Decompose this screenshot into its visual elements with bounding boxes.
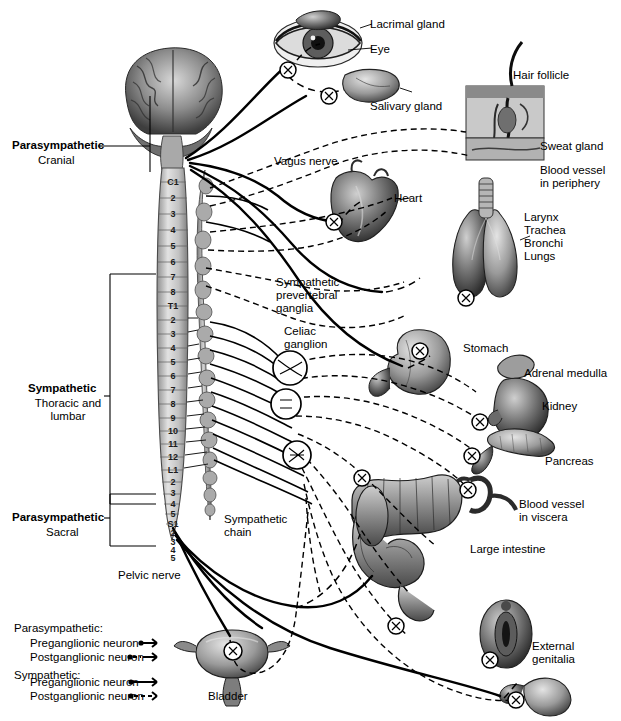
legend-symp-postganglionic-label: Postganglionic neuron [30, 690, 144, 703]
division-label-parasympathetic-sacral: Parasympathetic [12, 511, 104, 524]
legend-para-preganglionic-label: Preganglionic neuron [30, 637, 139, 650]
label-eye: Eye [370, 43, 390, 56]
label-heart: Heart [394, 192, 422, 205]
svg-text:5: 5 [170, 241, 175, 251]
label-large-intestine: Large intestine [470, 543, 545, 556]
svg-text:5: 5 [170, 357, 175, 367]
division-label-sympathetic: Sympathetic [28, 382, 96, 395]
svg-text:5: 5 [170, 553, 175, 563]
label-external-genitalia: External genitalia [532, 640, 575, 666]
label-stomach: Stomach [463, 342, 508, 355]
organ-stomach [369, 330, 450, 397]
label-adrenal-medulla: Adrenal medulla [524, 367, 607, 380]
svg-text:10: 10 [168, 426, 178, 436]
svg-text:3: 3 [170, 329, 175, 339]
svg-text:6: 6 [170, 257, 175, 267]
division-sub-cranial: Cranial [38, 154, 74, 167]
svg-text:2: 2 [170, 193, 175, 203]
svg-text:2: 2 [170, 477, 175, 487]
svg-text:4: 4 [170, 343, 175, 353]
organ-pancreas [472, 429, 555, 474]
legend-heading-parasympathetic: Parasympathetic: [14, 622, 103, 635]
label-hair-follicle: Hair follicle [513, 69, 569, 82]
svg-text:7: 7 [170, 385, 175, 395]
label-blood-vessel-viscera: Blood vessel in viscera [519, 498, 584, 524]
bracket-parasympathetic-sacral [104, 494, 156, 546]
svg-text:3: 3 [170, 488, 175, 498]
svg-text:9: 9 [170, 413, 175, 423]
figure-canvas: C1 2 3 4 5 6 7 8 T1 2 3 4 5 6 7 8 9 10 1… [0, 0, 621, 721]
organ-salivary-gland [343, 69, 399, 102]
svg-text:5: 5 [170, 509, 175, 519]
svg-text:11: 11 [168, 439, 178, 449]
label-sweat-gland: Sweat gland [540, 140, 603, 153]
label-kidney: Kidney [542, 400, 577, 413]
bracket-sympathetic [104, 274, 156, 504]
legend-symp-preganglionic-label: Preganglionic neuron [30, 676, 139, 689]
label-vagus-nerve: Vagus nerve [274, 155, 338, 168]
label-blood-vessel-periphery: Blood vessel in periphery [540, 164, 605, 190]
organ-large-intestine [352, 475, 462, 621]
label-salivary-gland: Salivary gland [370, 100, 442, 113]
svg-text:2: 2 [170, 315, 175, 325]
label-celiac-ganglion: Celiac ganglion [284, 325, 327, 351]
label-pelvic-nerve: Pelvic nerve [118, 569, 181, 582]
label-pancreas: Pancreas [545, 455, 594, 468]
svg-text:4: 4 [170, 225, 175, 235]
label-lacrimal-gland: Lacrimal gland [370, 18, 445, 31]
organ-hair-follicle [466, 42, 544, 160]
division-label-parasympathetic-cranial: Parasympathetic [12, 139, 104, 152]
organ-heart [331, 160, 398, 241]
svg-text:8: 8 [170, 399, 175, 409]
svg-text:6: 6 [170, 371, 175, 381]
label-sympathetic-chain: Sympathetic chain [224, 513, 287, 539]
svg-text:4: 4 [170, 499, 175, 509]
label-bladder: Bladder [208, 690, 248, 703]
division-sub-sacral: Sacral [46, 526, 79, 539]
legend-para-postganglionic-label: Postganglionic neuron [30, 651, 144, 664]
svg-text:T1: T1 [168, 301, 179, 311]
division-sub-thoracolumbar: Thoracic and lumbar [18, 397, 118, 423]
svg-text:C1: C1 [167, 177, 179, 187]
anatomy-artwork: C1 2 3 4 5 6 7 8 T1 2 3 4 5 6 7 8 9 10 1… [0, 0, 621, 721]
svg-text:3: 3 [170, 209, 175, 219]
svg-text:12: 12 [168, 452, 178, 462]
label-respiratory-tract: Larynx Trachea Bronchi Lungs [524, 211, 566, 263]
organ-lacrimal-gland [296, 11, 340, 30]
organ-lungs [453, 178, 517, 297]
svg-text:7: 7 [170, 272, 175, 282]
label-prevertebral-ganglia: Sympathetic prevertebral ganglia [276, 276, 339, 315]
svg-text:8: 8 [170, 287, 175, 297]
svg-text:L1: L1 [168, 465, 179, 475]
